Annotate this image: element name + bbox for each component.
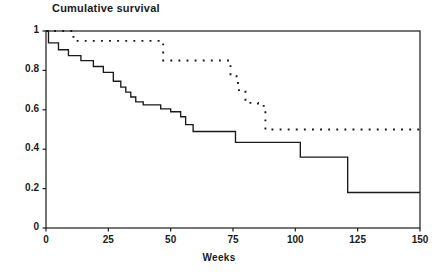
y-tick-label: 0.6 bbox=[0, 103, 39, 114]
x-tick-label: 75 bbox=[213, 234, 253, 245]
axes-frame bbox=[46, 31, 420, 228]
x-tick-label: 0 bbox=[26, 234, 66, 245]
x-tick-label: 25 bbox=[88, 234, 128, 245]
y-tick-label: 0.8 bbox=[0, 63, 39, 74]
y-tick-label: 0.2 bbox=[0, 182, 39, 193]
chart-title: Cumulative survival bbox=[52, 2, 160, 14]
y-tick-label: 1 bbox=[0, 24, 39, 35]
x-tick-label: 150 bbox=[400, 234, 438, 245]
y-tick-label: 0.4 bbox=[0, 142, 39, 153]
data-series-group bbox=[46, 31, 420, 193]
x-tick-label: 100 bbox=[275, 234, 315, 245]
x-tick-label: 50 bbox=[151, 234, 191, 245]
y-tick-label: 0 bbox=[0, 221, 39, 232]
series-dotted-curve bbox=[46, 31, 420, 130]
x-axis-label: Weeks bbox=[0, 252, 438, 263]
series-solid-curve bbox=[46, 31, 420, 193]
survival-chart-figure: Cumulative survival 00.20.40.60.81 02550… bbox=[0, 0, 438, 276]
x-tick-label: 125 bbox=[338, 234, 378, 245]
plot-border bbox=[46, 31, 420, 228]
